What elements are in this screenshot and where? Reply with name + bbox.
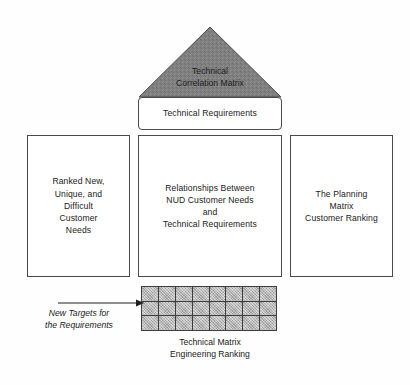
grid-cell: [176, 302, 192, 316]
technical-requirements-box: Technical Requirements: [138, 97, 282, 130]
grid-cell: [243, 302, 259, 316]
planning-matrix-label: The Planning Matrix Customer Ranking: [305, 188, 378, 225]
grid-cell: [243, 316, 259, 330]
grid-cell: [176, 287, 192, 301]
grid-cell: [260, 287, 276, 301]
grid-cell: [142, 316, 158, 330]
customer-needs-label: Ranked New, Unique, and Difficult Custom…: [52, 175, 104, 236]
grid-cell: [210, 287, 226, 301]
grid-cell: [226, 287, 242, 301]
new-targets-label: New Targets for the Requirements: [18, 307, 140, 331]
grid-cell: [226, 302, 242, 316]
technical-requirements-label: Technical Requirements: [163, 107, 257, 119]
planning-matrix-box: The Planning Matrix Customer Ranking: [290, 135, 393, 277]
grid-cell: [176, 316, 192, 330]
grid-cell: [226, 316, 242, 330]
grid-cell: [260, 316, 276, 330]
customer-needs-box: Ranked New, Unique, and Difficult Custom…: [27, 135, 130, 277]
relationship-matrix-label: Relationships Between NUD Customer Needs…: [163, 182, 257, 231]
grid-cell: [210, 316, 226, 330]
relationship-matrix-box: Relationships Between NUD Customer Needs…: [138, 135, 282, 277]
technical-matrix-grid: [141, 286, 277, 331]
technical-correlation-matrix-roof: Technical Correlation Matrix: [138, 26, 282, 98]
roof-triangle-icon: [138, 26, 282, 98]
grid-cell: [142, 287, 158, 301]
grid-cell: [193, 302, 209, 316]
grid-cell: [159, 316, 175, 330]
grid-cell: [193, 316, 209, 330]
house-of-quality-diagram: Technical Correlation Matrix Technical R…: [0, 0, 410, 385]
grid-cell: [142, 302, 158, 316]
grid-cell: [260, 302, 276, 316]
grid-cell: [243, 287, 259, 301]
grid-cell: [210, 302, 226, 316]
grid-cell: [193, 287, 209, 301]
technical-matrix-caption: Technical Matrix Engineering Ranking: [130, 336, 290, 360]
grid-cell: [159, 302, 175, 316]
grid-cell: [159, 287, 175, 301]
